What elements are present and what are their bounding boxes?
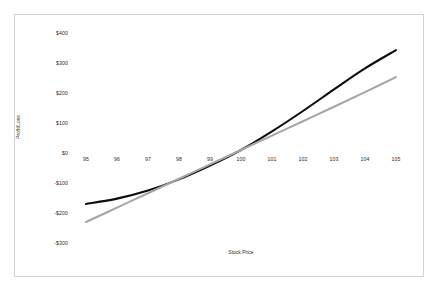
y-tick-label-6: -$200 xyxy=(40,210,68,216)
y-tick-label-4: $0 xyxy=(40,150,68,156)
x-tick-label-9: 104 xyxy=(361,156,370,162)
y-tick-label-2: $200 xyxy=(40,90,68,96)
y-tick-label-1: $300 xyxy=(40,60,68,66)
series-line-1 xyxy=(86,77,396,222)
y-axis-title: Profit/Loss xyxy=(15,107,21,147)
x-axis-title: Stock Price xyxy=(228,249,253,255)
x-tick-label-0: 95 xyxy=(83,156,89,162)
x-tick-label-8: 103 xyxy=(330,156,339,162)
x-tick-label-4: 99 xyxy=(207,156,213,162)
y-tick-label-7: -$300 xyxy=(40,240,68,246)
x-tick-label-1: 96 xyxy=(114,156,120,162)
x-tick-label-7: 102 xyxy=(299,156,308,162)
y-tick-label-0: $400 xyxy=(40,30,68,36)
series-line-0 xyxy=(86,50,396,204)
x-tick-label-2: 97 xyxy=(145,156,151,162)
x-tick-label-3: 98 xyxy=(176,156,182,162)
y-tick-label-5: -$100 xyxy=(40,180,68,186)
x-tick-label-6: 101 xyxy=(268,156,277,162)
chart-plot-area xyxy=(0,0,438,291)
chart-series-group xyxy=(86,50,396,222)
x-tick-label-10: 105 xyxy=(392,156,401,162)
x-tick-label-5: 100 xyxy=(237,156,246,162)
y-tick-label-3: $100 xyxy=(40,120,68,126)
